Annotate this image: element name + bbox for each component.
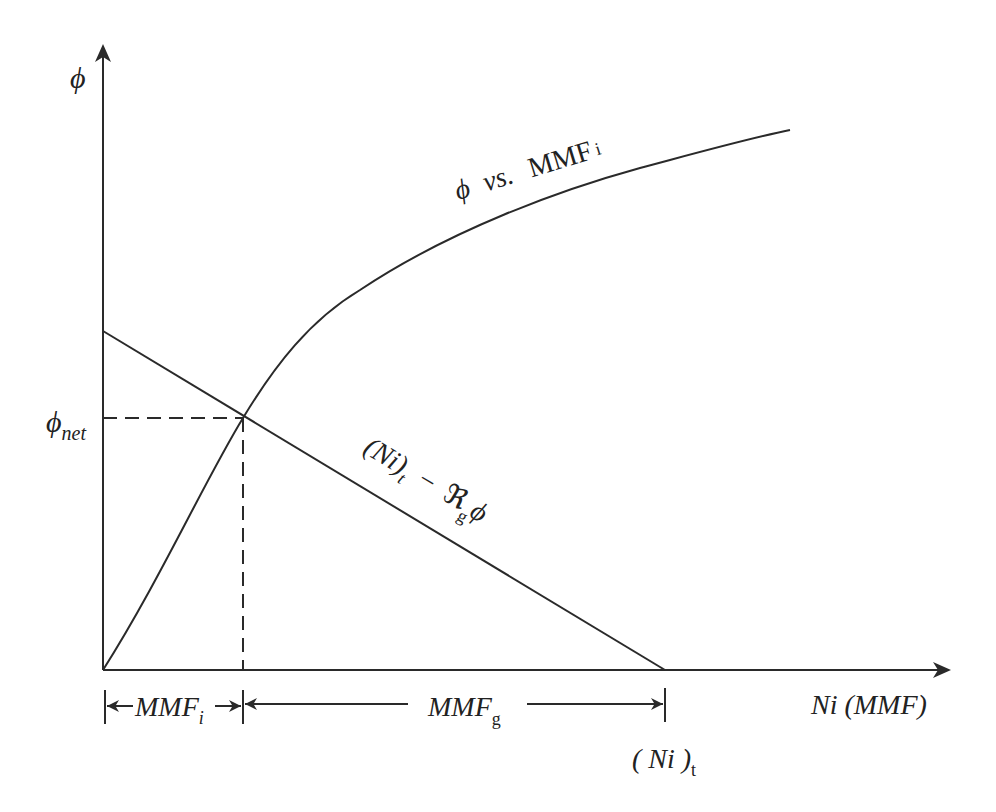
load-line-label: (Ni)t − ℜgϕ [355,431,494,536]
ni-t-label: ( Ni )t [632,743,696,780]
y-axis [95,44,111,670]
load-line-diagram: ϕ ϕnet ϕ vs. MMFi (Ni)t − ℜgϕ MMF [0,0,996,812]
svg-text:ϕ vs. MMFi: ϕ vs. MMFi [451,132,605,206]
mmf-g-dimension: MMFg [245,691,663,729]
mmf-g-label: MMFg [427,691,501,729]
curve-label: ϕ vs. MMFi [451,132,605,206]
svg-text:(Ni)t − ℜgϕ: (Ni)t − ℜgϕ [355,431,494,536]
x-axis [103,662,951,678]
y-axis-label: ϕ [70,61,86,94]
air-gap-load-line [103,331,665,670]
x-axis-label: Ni (MMF) [810,689,927,720]
mmf-i-label: MMFi [134,691,204,728]
phi-net-label: ϕnet [46,405,86,444]
magnetization-curve [103,130,790,670]
mmf-i-dimension: MMFi [107,691,241,728]
